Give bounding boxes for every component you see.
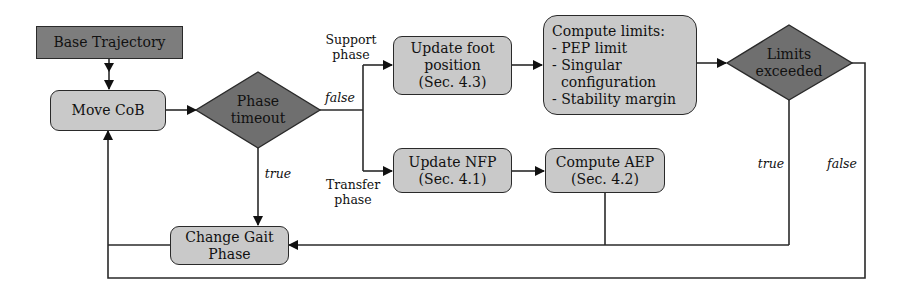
move-cob-label: Move CoB <box>72 102 145 119</box>
compute-limits-title: Compute limits: <box>552 23 665 40</box>
timeout-true-label: true <box>262 166 294 181</box>
compute-limits-node: Compute limits: - PEP limit - Singular c… <box>543 15 697 115</box>
transfer-phase-label: Transfer phase <box>322 177 384 207</box>
phase-timeout-line2: timeout <box>231 110 286 127</box>
change-gait-phase-label: Change Gait Phase <box>171 229 288 263</box>
update-nfp-line2: (Sec. 4.1) <box>419 171 487 188</box>
update-nfp-line1: Update NFP <box>409 154 497 171</box>
compute-limits-item: - PEP limit <box>552 40 627 57</box>
base-trajectory-label: Base Trajectory <box>53 34 165 51</box>
compute-aep-line2: (Sec. 4.2) <box>571 171 639 188</box>
update-nfp-node: Update NFP (Sec. 4.1) <box>393 148 512 193</box>
update-foot-line2: position <box>424 57 481 74</box>
limits-exceeded-label: Limits exceeded <box>741 45 837 81</box>
move-cob-node: Move CoB <box>50 90 166 131</box>
limits-false-label: false <box>824 156 860 171</box>
compute-limits-item: - Stability margin <box>552 91 676 108</box>
transfer-phase-line2: phase <box>322 192 384 207</box>
change-gait-phase-node: Change Gait Phase <box>170 226 289 265</box>
update-foot-position-node: Update foot position (Sec. 4.3) <box>393 36 512 95</box>
limits-exceeded-line1: Limits <box>767 46 811 63</box>
update-foot-line3: (Sec. 4.3) <box>419 74 487 91</box>
compute-aep-line1: Compute AEP <box>556 154 655 171</box>
phase-timeout-label: Phase timeout <box>210 92 306 128</box>
limits-exceeded-line2: exceeded <box>756 63 823 80</box>
transfer-phase-line1: Transfer <box>322 177 384 192</box>
timeout-false-label: false <box>322 90 358 105</box>
limits-true-label: true <box>755 156 787 171</box>
support-phase-line1: Support <box>322 32 380 47</box>
support-phase-label: Support phase <box>322 32 380 62</box>
compute-limits-item: - Singular <box>552 57 622 74</box>
phase-timeout-line1: Phase <box>237 93 279 110</box>
compute-aep-node: Compute AEP (Sec. 4.2) <box>545 148 665 193</box>
base-trajectory-node: Base Trajectory <box>36 26 183 59</box>
update-foot-line1: Update foot <box>410 40 494 57</box>
compute-limits-item: configuration <box>552 74 656 91</box>
support-phase-line2: phase <box>322 47 380 62</box>
